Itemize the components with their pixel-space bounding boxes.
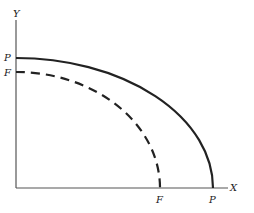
x-axis-label: X	[229, 182, 238, 193]
curve-p-solid	[16, 58, 213, 188]
ppf-diagram: Y X P F F P	[0, 0, 254, 213]
curve-f-dashed	[16, 72, 160, 188]
p-x-intercept-label: P	[208, 194, 216, 205]
y-axis-label: Y	[13, 8, 21, 19]
f-y-intercept-label: F	[3, 67, 12, 78]
p-y-intercept-label: P	[3, 52, 11, 63]
f-x-intercept-label: F	[155, 194, 164, 205]
